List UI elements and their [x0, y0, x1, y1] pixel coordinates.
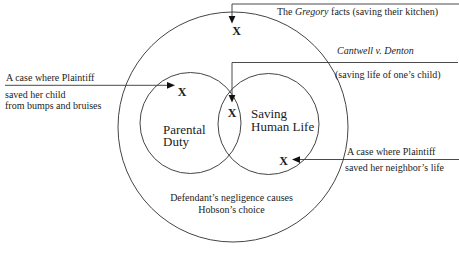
gregory-arrowhead-icon: [229, 16, 236, 24]
gregory-annotation: The Gregory facts (saving their kitchen): [277, 6, 438, 17]
gregory-annotation-prefix: The: [277, 6, 295, 17]
venn-diagram-page: The Gregory facts (saving their kitchen)…: [0, 0, 459, 256]
right-case-annotation-line1: A case where Plaintiff: [347, 146, 435, 157]
gregory-annotation-suffix: facts (saving their kitchen): [329, 6, 438, 17]
right-case-arrowhead-icon: [292, 156, 300, 163]
cantwell-annotation-detail: (saving life of one’s child): [335, 69, 441, 80]
cantwell-case-name: Cantwell v. Denton: [337, 45, 414, 56]
venn-diagram-canvas: [0, 0, 459, 256]
left-case-annotation-line3: from bumps and bruises: [5, 100, 101, 111]
right-case-annotation-line2: saved her neighbor’s life: [345, 162, 444, 173]
left-case-annotation-line1: A case where Plaintiff: [6, 72, 94, 83]
outer-circle-label-line1: Defendant’s negligence causes: [159, 192, 304, 203]
x-marker-gregory-facts: X: [232, 25, 241, 37]
x-marker-saved-neighbor: X: [279, 155, 288, 167]
left-case-annotation-line2: saved her child: [5, 89, 66, 100]
right-circle-label: Saving Human Life: [251, 108, 321, 133]
left-circle-label: Parental Duty: [163, 124, 219, 149]
outer-circle-label-line2: Hobson’s choice: [159, 204, 304, 215]
x-marker-cantwell-intersection: X: [228, 107, 237, 119]
gregory-case-name: Gregory: [295, 6, 329, 17]
x-marker-saved-child: X: [178, 86, 187, 98]
left-case-arrowhead-icon: [167, 82, 175, 89]
